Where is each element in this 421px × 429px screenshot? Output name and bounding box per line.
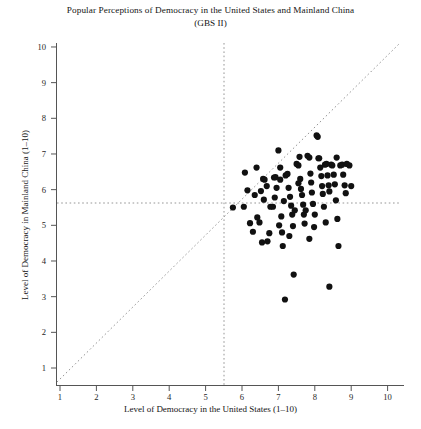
x-tick-label: 7 — [276, 392, 280, 402]
data-point — [307, 171, 313, 177]
data-point — [278, 213, 284, 219]
data-point — [256, 219, 262, 225]
data-point — [306, 154, 312, 160]
data-point — [261, 197, 267, 203]
data-point — [326, 188, 332, 194]
data-point — [287, 194, 293, 200]
data-points-group — [230, 132, 355, 302]
data-point — [253, 164, 259, 170]
data-point — [295, 162, 301, 168]
data-point — [252, 192, 258, 198]
data-point — [296, 154, 302, 160]
data-point — [281, 198, 287, 204]
data-point — [286, 233, 292, 239]
data-point — [295, 180, 301, 186]
data-point — [298, 186, 304, 192]
data-point — [244, 187, 250, 193]
x-axis-title: Level of Democracy in the United States … — [0, 404, 421, 414]
data-point — [276, 222, 282, 228]
data-point — [285, 185, 291, 191]
y-tick-label: 8 — [12, 113, 46, 123]
data-point — [291, 271, 297, 277]
data-point — [348, 183, 354, 189]
data-point — [300, 202, 306, 208]
y-tick-label: 10 — [12, 42, 46, 52]
data-point — [342, 182, 348, 188]
data-point — [247, 220, 253, 226]
x-tick-label: 9 — [349, 392, 353, 402]
data-point — [264, 238, 270, 244]
data-point — [284, 171, 290, 177]
data-point — [334, 216, 340, 222]
data-point — [241, 204, 247, 210]
x-tick-label: 8 — [313, 392, 317, 402]
y-tick-label: 9 — [12, 78, 46, 88]
data-point — [312, 212, 318, 218]
data-point — [303, 207, 309, 213]
data-point — [332, 181, 338, 187]
x-tick-label: 1 — [58, 392, 62, 402]
data-point — [320, 191, 326, 197]
data-point — [343, 190, 349, 196]
x-tick-label: 3 — [131, 392, 135, 402]
data-point — [323, 219, 329, 225]
data-point — [326, 182, 332, 188]
x-tick-label: 5 — [203, 392, 207, 402]
data-point — [279, 229, 285, 235]
data-point — [334, 154, 340, 160]
data-point — [315, 134, 321, 140]
x-tick-label: 2 — [94, 392, 98, 402]
data-point — [319, 183, 325, 189]
plot-area — [0, 0, 421, 429]
data-point — [273, 185, 279, 191]
data-point — [277, 164, 283, 170]
data-point — [324, 172, 330, 178]
x-tick-label: 6 — [240, 392, 244, 402]
data-point — [280, 243, 286, 249]
data-point — [292, 207, 298, 213]
data-point — [308, 179, 314, 185]
data-point — [329, 162, 335, 168]
data-point — [331, 172, 337, 178]
data-point — [326, 284, 332, 290]
y-axis-title: Level of Democracy in Mainland China (1–… — [20, 130, 30, 300]
democracy-perceptions-scatter-figure: Popular Perceptions of Democracy in the … — [0, 0, 421, 429]
data-point — [306, 236, 312, 242]
data-point — [266, 230, 272, 236]
x-tick-label: 4 — [167, 392, 171, 402]
data-point — [277, 177, 283, 183]
data-point — [282, 296, 288, 302]
data-point — [333, 197, 339, 203]
data-point — [261, 177, 267, 183]
data-point — [270, 204, 276, 210]
data-point — [321, 204, 327, 210]
data-point — [258, 188, 264, 194]
data-point — [275, 147, 281, 153]
data-point — [302, 220, 308, 226]
y-tick-label: 2 — [12, 327, 46, 337]
axes-group — [56, 43, 404, 386]
x-tick-label: 10 — [383, 392, 392, 402]
data-point — [259, 239, 265, 245]
data-point — [310, 201, 316, 207]
data-point — [264, 183, 270, 189]
data-point — [340, 172, 346, 178]
data-point — [242, 169, 248, 175]
data-point — [309, 189, 315, 195]
data-point — [316, 155, 322, 161]
data-point — [290, 223, 296, 229]
data-point — [250, 229, 256, 235]
data-point — [311, 224, 317, 230]
data-point — [318, 173, 324, 179]
diagonal-45-line — [57, 43, 400, 382]
reference-lines-group — [57, 43, 400, 385]
data-point — [346, 162, 352, 168]
y-tick-label: 1 — [12, 363, 46, 373]
data-point — [299, 192, 305, 198]
data-point — [230, 204, 236, 210]
data-point — [272, 194, 278, 200]
data-point — [335, 243, 341, 249]
